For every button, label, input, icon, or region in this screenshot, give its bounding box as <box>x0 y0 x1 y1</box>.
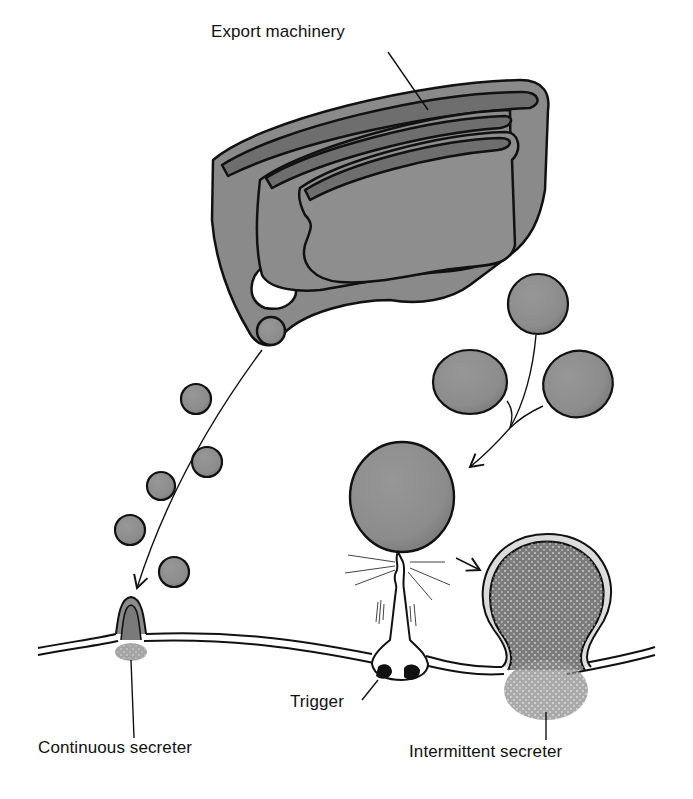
fusion-arrow <box>456 558 480 570</box>
trigger-receptor <box>372 552 428 680</box>
trigger-leader <box>362 680 378 700</box>
intermittent-secreter-label: Intermittent secreter <box>409 742 562 762</box>
secretion-diagram <box>0 0 693 799</box>
continuous-secretion-site <box>115 597 147 661</box>
continuous-secreter-leader <box>131 660 134 738</box>
diagram-canvas: Export machinery Continuous secreter Tri… <box>0 0 693 799</box>
continuous-vesicles <box>115 384 222 587</box>
intermittent-secretion-site <box>483 534 611 720</box>
regulated-vesicles <box>433 274 622 427</box>
storage-granule <box>350 442 454 552</box>
export-machinery-label: Export machinery <box>211 22 345 42</box>
continuous-secreter-label: Continuous secreter <box>38 738 192 758</box>
trigger-label: Trigger <box>290 692 344 712</box>
golgi-stack <box>212 80 548 345</box>
